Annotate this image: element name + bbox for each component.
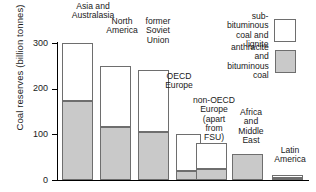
bar-segment-anthracite-4 bbox=[196, 169, 227, 180]
bar-6 bbox=[272, 175, 303, 180]
bar-0 bbox=[62, 43, 93, 180]
y-tick-mark-0 bbox=[52, 180, 58, 181]
y-tick-label-0: 0 bbox=[18, 176, 48, 185]
category-label-4: non-OECD Europe (apart from FSU) bbox=[190, 96, 238, 142]
category-label-3: OECD Europe bbox=[157, 72, 201, 91]
bar-segment-anthracite-0 bbox=[62, 101, 93, 180]
category-label-6: Latin America bbox=[268, 146, 312, 165]
y-axis-line bbox=[57, 42, 58, 181]
category-label-5: Africa and Middle East bbox=[232, 108, 270, 145]
bar-segment-anthracite-1 bbox=[100, 127, 131, 180]
legend-label-1: anthracite and bituminous coal bbox=[222, 43, 269, 80]
category-label-2: former Soviet Union bbox=[136, 17, 180, 45]
legend-swatch-sub-bituminous bbox=[274, 19, 295, 42]
x-axis-line bbox=[57, 180, 309, 181]
bar-4 bbox=[196, 143, 227, 180]
bar-segment-sub-bituminous-4 bbox=[196, 143, 227, 168]
bar-5 bbox=[232, 154, 263, 180]
chart-root: Coal reserves (billion tonnes) 010020030… bbox=[0, 0, 316, 192]
y-tick-mark-200 bbox=[52, 89, 58, 90]
bar-segment-sub-bituminous-0 bbox=[62, 43, 93, 101]
bar-1 bbox=[100, 66, 131, 180]
y-tick-label-200: 200 bbox=[18, 84, 48, 93]
y-axis-label: Coal reserves (billion tonnes) bbox=[14, 0, 25, 143]
bar-segment-anthracite-5 bbox=[232, 154, 263, 180]
y-tick-label-300: 300 bbox=[18, 39, 48, 48]
y-tick-mark-300 bbox=[52, 43, 58, 44]
bar-segment-sub-bituminous-1 bbox=[100, 66, 131, 127]
bar-segment-anthracite-6 bbox=[272, 178, 303, 180]
bar-segment-anthracite-2 bbox=[138, 132, 169, 180]
legend-swatch-anthracite bbox=[275, 50, 296, 73]
y-tick-mark-100 bbox=[52, 134, 58, 135]
y-tick-label-100: 100 bbox=[18, 130, 48, 139]
